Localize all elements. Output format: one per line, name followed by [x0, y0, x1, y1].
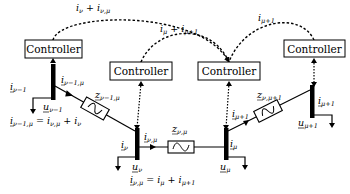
controller-1: Controller	[25, 40, 82, 58]
comm-label-1: iν + iν,μ	[76, 2, 110, 15]
comm-label-3: iμ+1	[258, 12, 275, 25]
controller-2: Controller	[110, 62, 172, 80]
svg-text:Controller: Controller	[202, 65, 258, 77]
load-arrow-icon	[30, 109, 36, 114]
equation-1: iν−1,μ = iν,μ + iν	[10, 115, 81, 128]
bus-mu	[224, 128, 229, 160]
bus-nu	[135, 128, 140, 160]
load-arrow-icon	[329, 123, 335, 128]
controller-4: Controller	[284, 40, 345, 57]
bus-mu-plus-1	[310, 85, 315, 118]
load-mu	[228, 157, 245, 165]
comm-link-c2-c3	[141, 33, 229, 62]
distribution-grid-diagram: iν + iν,μ iμ + iμ+1 iμ+1 Controller Cont…	[0, 0, 350, 194]
svg-text:Controller: Controller	[114, 65, 170, 77]
svg-text:Controller: Controller	[287, 43, 343, 55]
controller-3: Controller	[198, 62, 260, 80]
load-arrow-icon	[242, 165, 248, 170]
load-arrow-icon	[115, 166, 121, 171]
bus-nu-minus-1	[51, 64, 56, 100]
equation-2: iν,μ = iμ + iμ+1	[130, 174, 195, 187]
svg-text:Controller: Controller	[26, 43, 82, 55]
